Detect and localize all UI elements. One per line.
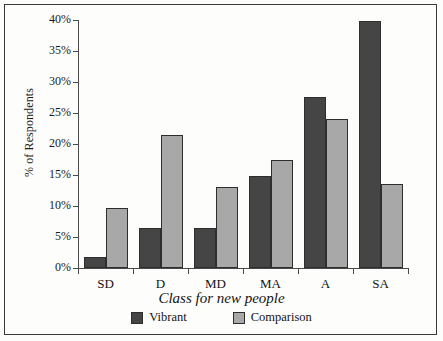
y-tick-mark: [73, 51, 78, 52]
legend-swatch-icon: [131, 312, 143, 324]
legend-label: Vibrant: [149, 310, 186, 325]
y-tick-label: 35%: [49, 43, 71, 58]
x-tick-mark: [408, 269, 409, 274]
x-tick-mark: [243, 269, 244, 274]
x-tick-mark: [188, 269, 189, 274]
legend-label: Comparison: [251, 310, 312, 325]
bar-sa-comparison: [381, 184, 403, 268]
bar-a-vibrant: [304, 97, 326, 268]
x-tick-mark: [353, 269, 354, 274]
y-tick-label: 25%: [49, 105, 71, 120]
y-tick-label: 30%: [49, 74, 71, 89]
bar-ma-vibrant: [249, 176, 271, 268]
y-tick-mark: [73, 82, 78, 83]
legend-item-comparison: Comparison: [233, 310, 312, 325]
bar-md-comparison: [216, 187, 238, 268]
y-tick-label: 0%: [55, 260, 71, 275]
plot-area: 0%5%10%15%20%25%30%35%40% SDDMDMAASA: [78, 20, 408, 268]
x-axis-title: Class for new people: [0, 290, 443, 307]
bar-sa-vibrant: [359, 21, 381, 268]
bar-sd-comparison: [106, 208, 128, 268]
bar-ma-comparison: [271, 160, 293, 268]
y-tick-label: 10%: [49, 198, 71, 213]
y-tick-label: 15%: [49, 167, 71, 182]
y-tick-mark: [73, 113, 78, 114]
bar-sd-vibrant: [84, 257, 106, 268]
legend-swatch-icon: [233, 312, 245, 324]
y-tick-mark: [73, 20, 78, 21]
bar-d-vibrant: [139, 228, 161, 268]
y-tick-label: 20%: [49, 136, 71, 151]
x-tick-mark: [78, 269, 79, 274]
x-tick-mark: [133, 269, 134, 274]
y-axis-title: % of Respondents: [22, 63, 37, 203]
y-tick-mark: [73, 144, 78, 145]
chart-figure: % of Respondents 0%5%10%15%20%25%30%35%4…: [0, 0, 443, 341]
y-tick-mark: [73, 206, 78, 207]
x-tick-mark: [298, 269, 299, 274]
y-tick-label: 5%: [55, 229, 71, 244]
bar-md-vibrant: [194, 228, 216, 268]
y-tick-label: 40%: [49, 12, 71, 27]
y-tick-mark: [73, 237, 78, 238]
legend-item-vibrant: Vibrant: [131, 310, 186, 325]
y-tick-mark: [73, 175, 78, 176]
y-axis-line: [78, 20, 79, 269]
bar-a-comparison: [326, 119, 348, 268]
bar-d-comparison: [161, 135, 183, 268]
chart-legend: VibrantComparison: [0, 310, 443, 325]
